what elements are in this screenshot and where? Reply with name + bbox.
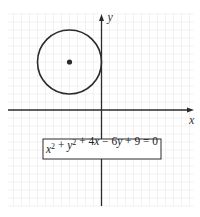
equation-term: + 9 = 0 [122, 135, 158, 147]
y-axis-arrow-icon [99, 14, 104, 21]
equation-term: − 6 [99, 135, 117, 147]
coordinate-plane: x y x2 + y2 + 4x − 6y + 9 = 0 [0, 0, 200, 217]
circle-center-point [67, 59, 72, 64]
x-axis-arrow-icon [187, 108, 194, 113]
equation-term: + 4 [76, 135, 94, 147]
equation-box: x2 + y2 + 4x − 6y + 9 = 0 [43, 135, 161, 159]
x-axis-label: x [188, 113, 195, 127]
equation-term: + [55, 139, 67, 151]
y-axis-label: y [107, 10, 114, 24]
axes: x y [8, 10, 195, 206]
